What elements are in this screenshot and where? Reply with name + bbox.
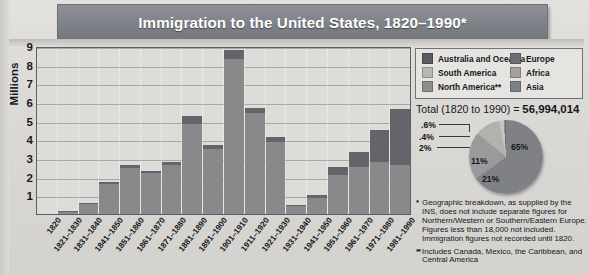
bar-segment-base <box>390 165 410 214</box>
pie-label-2: 2% <box>419 143 431 153</box>
bar-segment-top <box>349 152 369 167</box>
x-tick-1820: 1820 <box>45 216 63 236</box>
legend-label: Europe <box>526 54 555 64</box>
legend-swatch <box>422 81 433 92</box>
footnote-2-marker: ** <box>416 248 420 257</box>
bar-segment-base <box>349 167 369 214</box>
banner-shadow <box>9 39 584 46</box>
pie-label-06: .6% <box>421 120 436 130</box>
bar-1831–1840 <box>79 48 100 214</box>
pie-leader-06 <box>439 124 469 125</box>
y-tick-9: 9 <box>7 41 33 53</box>
legend-swatch <box>422 67 433 78</box>
legend-swatch <box>510 81 521 92</box>
bar-segment-top <box>328 167 348 174</box>
bar-1911–1920 <box>245 48 266 214</box>
bar-segment-top <box>390 109 410 165</box>
bar-segment-base <box>224 59 244 214</box>
bar-1941–1950 <box>307 48 328 214</box>
pie-label-04: .4% <box>419 132 434 142</box>
bar-1820 <box>37 48 58 214</box>
bar-series <box>37 48 410 214</box>
bar-chart <box>36 47 411 215</box>
legend-label: Africa <box>526 68 550 78</box>
legend-swatch <box>510 53 521 64</box>
bar-segment-base <box>286 206 306 214</box>
bar-1931–1940 <box>286 48 307 214</box>
pie-label-11: 11% <box>471 156 488 166</box>
y-tick-3: 3 <box>7 153 33 165</box>
bar-segment-base <box>370 162 390 214</box>
bar-1961–1970 <box>349 48 370 214</box>
bar-segment-base <box>328 175 348 214</box>
y-tick-4: 4 <box>7 134 33 146</box>
y-tick-1: 1 <box>7 190 33 202</box>
total-line: Total (1820 to 1990) = 56,994,014 <box>416 103 588 115</box>
bar-segment-top <box>224 50 244 59</box>
bar-segment-top <box>370 130 390 162</box>
legend-item: Europe <box>510 53 578 64</box>
bar-1871–1880 <box>162 48 183 214</box>
bar-segment-base <box>307 198 327 214</box>
chart-title-banner: Immigration to the United States, 1820–1… <box>57 4 548 41</box>
bar-1821–1830 <box>58 48 79 214</box>
y-tick-5: 5 <box>7 116 33 128</box>
bar-1861–1870 <box>141 48 162 214</box>
footnote-2: ** Includes Canada, Mexico, the Caribbea… <box>416 248 588 266</box>
bar-segment-base <box>182 124 202 214</box>
bar-segment-base <box>79 204 99 214</box>
y-axis-label: Millions <box>8 63 20 106</box>
bar-1951–1960 <box>328 48 349 214</box>
pie-leader-06-drop <box>469 124 470 132</box>
plot-area <box>36 47 411 215</box>
bar-1891–1900 <box>203 48 224 214</box>
pie-leader-2 <box>437 147 470 148</box>
bar-segment-base <box>99 184 119 214</box>
legend: Australia and OceaniaEuropeSouth America… <box>415 48 583 99</box>
bar-1841–1850 <box>99 48 120 214</box>
bar-1881–1890 <box>182 48 203 214</box>
bar-segment-base <box>162 165 182 214</box>
bar-1901–1910 <box>224 48 245 214</box>
page-title: Immigration to the United States, 1820–1… <box>138 14 467 31</box>
footnote-1: * Geographic breakdown, as supplied by t… <box>416 199 588 244</box>
bar-segment-base <box>245 113 265 214</box>
footnote-1-text: Geographic breakdown, as supplied by the… <box>422 198 587 243</box>
total-value: 56,994,014 <box>522 103 579 115</box>
pie-label-65: 65% <box>511 142 528 152</box>
legend-swatch <box>510 67 521 78</box>
legend-swatch <box>422 53 433 64</box>
pie-leader-04 <box>439 136 470 137</box>
legend-item: South America <box>422 67 510 78</box>
footnote-2-text: Includes Canada, Mexico, the Caribbean, … <box>422 247 582 265</box>
bar-segment-base <box>120 168 140 214</box>
bar-1971–1980 <box>370 48 391 214</box>
x-axis-labels: 18201821–18301831–18401841–18501851–1860… <box>36 216 411 274</box>
y-tick-2: 2 <box>7 172 33 184</box>
legend-item: North America** <box>422 81 510 92</box>
legend-item: Australia and Oceania <box>422 53 510 64</box>
bar-1851–1860 <box>120 48 141 214</box>
legend-item: Africa <box>510 67 578 78</box>
bar-1921–1930 <box>266 48 287 214</box>
legend-label: Asia <box>526 82 544 92</box>
footnote-1-marker: * <box>416 199 419 208</box>
legend-label: North America** <box>438 82 501 92</box>
chart-page: Immigration to the United States, 1820–1… <box>0 0 589 275</box>
bar-segment-base <box>58 212 78 214</box>
total-prefix: Total (1820 to 1990) = <box>416 103 522 115</box>
footnotes: * Geographic breakdown, as supplied by t… <box>416 199 588 265</box>
bar-segment-base <box>203 149 223 214</box>
legend-label: South America <box>438 68 496 78</box>
pie-chart-area: 65% 21% 11% 2% .4% .6% <box>415 118 589 196</box>
bar-segment-base <box>141 173 161 214</box>
bar-segment-base <box>266 142 286 214</box>
pie-label-21: 21% <box>482 174 499 184</box>
bar-segment-top <box>182 116 202 124</box>
legend-item: Asia <box>510 81 578 92</box>
bar-1981–1990 <box>390 48 410 214</box>
